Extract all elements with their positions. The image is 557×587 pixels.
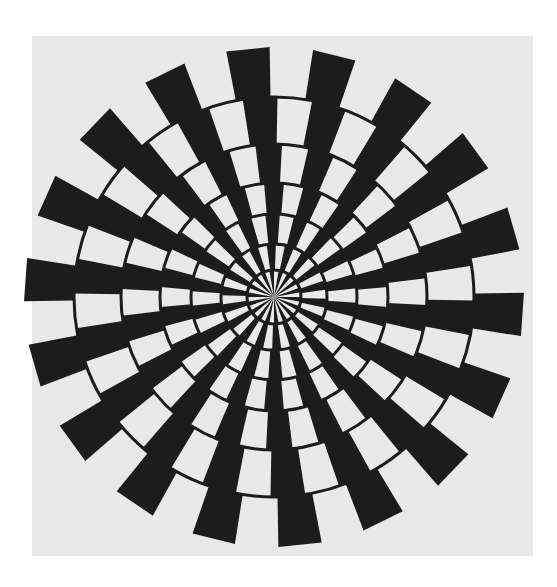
spoke-segment (280, 245, 294, 272)
spoke-segment (264, 380, 284, 411)
spoke-segment (221, 286, 248, 296)
spoke-segment (266, 410, 293, 450)
spoke-segment (383, 252, 426, 283)
spoke-segment (424, 300, 474, 335)
spoke-segment (226, 47, 270, 101)
spoke-segment (24, 258, 76, 301)
spoke-segment (272, 324, 281, 350)
spoke-segment (122, 311, 165, 342)
spoke-segment (268, 350, 282, 380)
spoke-segment (243, 97, 278, 146)
spoke-segment (121, 263, 163, 291)
spoke-segment (325, 301, 356, 317)
spoke-segment (300, 298, 327, 308)
spoke-segment (160, 304, 193, 326)
radial-spokes (24, 47, 524, 547)
spoke-segment (265, 214, 279, 244)
spoke-segment (74, 259, 124, 294)
spoke-segment (385, 303, 427, 331)
spoke-segment (264, 183, 284, 214)
spoke-segment (354, 267, 387, 289)
spoke-segment (305, 50, 355, 108)
spoke-segment (271, 448, 306, 497)
spoke-segment (274, 297, 295, 318)
spoke-segment (255, 144, 282, 184)
spoke-segment (253, 276, 274, 297)
spoke-segment (325, 274, 357, 291)
spoke-segment (354, 304, 387, 326)
spoke-segment (267, 244, 276, 270)
spoke-segment (191, 277, 222, 293)
spoke-segment (472, 293, 524, 336)
spoke-segment (222, 301, 249, 314)
spoke-segment (300, 281, 327, 294)
spoke-segment (191, 303, 223, 320)
spoke-segment (160, 267, 193, 289)
spoke-segment (254, 322, 268, 349)
spiral-illusion-graphic (0, 0, 557, 587)
spoke-segment (277, 493, 321, 547)
spoke-segment (193, 486, 243, 544)
